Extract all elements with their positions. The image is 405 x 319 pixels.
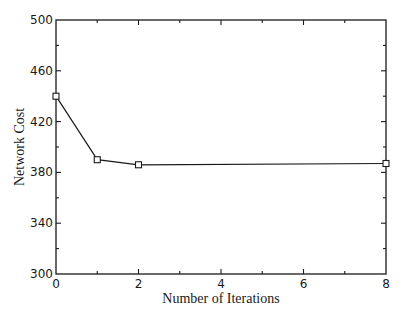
data-series [53,93,389,168]
y-tick-label: 340 [30,216,53,230]
x-tick-label: 4 [217,277,225,291]
data-point-square-marker [53,93,59,99]
y-tick-label: 300 [30,267,53,281]
tick-labels: 02468300340380420460500 [30,13,390,291]
data-point-square-marker [136,162,142,168]
y-tick-label: 380 [30,165,53,179]
x-tick-label: 6 [300,277,308,291]
axis-ticks [56,20,386,274]
y-axis-title: Network Cost [12,108,27,186]
y-tick-label: 420 [30,115,53,129]
y-tick-label: 500 [30,13,53,27]
plot-border [56,20,386,274]
data-point-square-marker [94,157,100,163]
x-tick-label: 2 [135,277,143,291]
x-tick-label: 8 [382,277,390,291]
y-tick-label: 460 [30,64,53,78]
plot-frame [56,20,386,274]
series-line [56,96,386,165]
x-axis-title: Number of Iterations [162,291,279,306]
x-tick-label: 0 [52,277,60,291]
chart: 02468300340380420460500 Number of Iterat… [0,0,405,319]
data-point-square-marker [383,161,389,167]
